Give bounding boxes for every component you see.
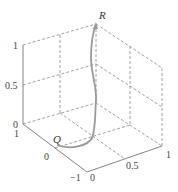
label-r: R: [98, 9, 106, 21]
x-tick-neg1: −1: [70, 172, 81, 183]
label-q: Q: [53, 133, 61, 145]
3d-plot: Q R 1 0.5 0 1 0 −1 0 0.5 1: [0, 0, 178, 192]
arrow-head-icon: [93, 22, 98, 29]
curve-q-to-r: [57, 24, 96, 147]
y-tick-0.5: 0.5: [126, 160, 139, 171]
y-tick-0: 0: [90, 172, 95, 183]
x-tick-1: 1: [14, 128, 19, 139]
z-tick-0.5: 0.5: [5, 80, 18, 91]
z-tick-1: 1: [13, 40, 18, 51]
x-tick-0: 0: [44, 151, 49, 162]
y-tick-1: 1: [166, 149, 171, 160]
